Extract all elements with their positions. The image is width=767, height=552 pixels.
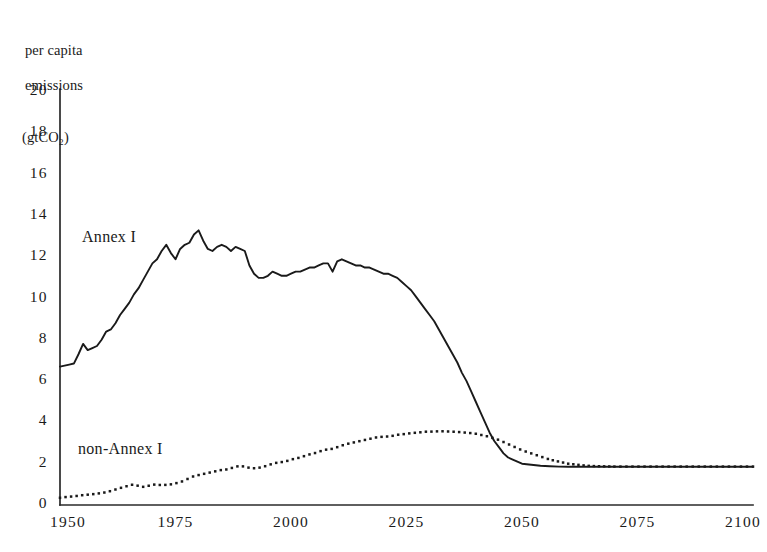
series-dot <box>582 464 585 467</box>
series-dot <box>603 465 606 468</box>
y-tick-0: 0 <box>4 494 48 512</box>
series-dot <box>524 450 527 453</box>
y-tick-6: 6 <box>4 370 48 388</box>
series-dot <box>552 459 555 462</box>
series-dot <box>242 465 245 468</box>
y-tick-14: 14 <box>4 205 48 223</box>
series-dot <box>475 433 478 436</box>
series-dot <box>562 461 565 464</box>
series-dot <box>441 430 444 433</box>
series-dot <box>625 465 628 468</box>
y-tick-4: 4 <box>4 411 48 429</box>
x-tick-2075: 2075 <box>620 513 656 531</box>
series-dot <box>247 466 250 469</box>
series-dot <box>598 465 601 468</box>
series-dot <box>746 465 749 468</box>
series-dot <box>425 430 428 433</box>
series-dot <box>353 441 356 444</box>
series-dot <box>175 482 178 485</box>
series-dot <box>208 471 211 474</box>
series-dot <box>264 465 267 468</box>
y-axis-tick-labels: 02468101214161820 <box>0 0 48 552</box>
series-dot <box>698 465 701 468</box>
y-tick-18: 18 <box>4 122 48 140</box>
series-dot <box>391 435 394 438</box>
series-dot <box>92 493 95 496</box>
x-tick-2100: 2100 <box>725 513 761 531</box>
series-dot <box>236 465 239 468</box>
series-dot <box>572 463 575 466</box>
series-dot <box>593 465 596 468</box>
series-dot <box>170 483 173 486</box>
series-dot <box>192 475 195 478</box>
series-dot <box>436 430 439 433</box>
series-dot <box>86 493 89 496</box>
series-dot <box>253 467 256 470</box>
series-dot <box>502 441 505 444</box>
series-dot <box>358 440 361 443</box>
series-line-annex-i <box>60 230 753 466</box>
series-dot <box>536 454 539 457</box>
series-dots-non-annex-i <box>59 430 755 499</box>
series-dot <box>469 432 472 435</box>
series-dot <box>486 435 489 438</box>
series-dot <box>103 491 106 494</box>
series-dot <box>386 435 389 438</box>
series-dot <box>214 470 217 473</box>
series-dot <box>147 485 150 488</box>
series-dot <box>447 430 450 433</box>
series-dot <box>375 436 378 439</box>
series-dot <box>341 444 344 447</box>
y-tick-2: 2 <box>4 453 48 471</box>
series-dot <box>655 465 658 468</box>
series-dot <box>325 448 328 451</box>
x-tick-1975: 1975 <box>158 513 194 531</box>
y-tick-20: 20 <box>4 81 48 99</box>
series-dot <box>281 461 284 464</box>
y-tick-12: 12 <box>4 246 48 264</box>
series-dot <box>419 431 422 434</box>
series-dot <box>508 443 511 446</box>
series-dot <box>303 455 306 458</box>
series-dot <box>330 448 333 451</box>
series-dot <box>667 465 670 468</box>
series-dot <box>275 462 278 465</box>
series-dot <box>691 465 694 468</box>
series-dot <box>336 446 339 449</box>
series-dot <box>547 458 550 461</box>
series-dot <box>577 464 580 467</box>
series-dot <box>64 496 67 499</box>
series-dot <box>587 465 590 468</box>
series-dot <box>619 465 622 468</box>
series-dot <box>197 474 200 477</box>
axis-lines <box>60 89 753 505</box>
series-dot <box>740 465 743 468</box>
x-tick-2050: 2050 <box>504 513 540 531</box>
series-label-annex-i: Annex I <box>82 228 136 246</box>
series-dot <box>728 465 731 468</box>
series-dot <box>114 488 117 491</box>
series-dot <box>81 494 84 497</box>
series-dot <box>679 465 682 468</box>
series-dot <box>314 452 317 455</box>
y-tick-10: 10 <box>4 288 48 306</box>
series-dot <box>70 495 73 498</box>
series-dot <box>125 485 128 488</box>
series-dot <box>292 458 295 461</box>
series-dot <box>716 465 719 468</box>
series-dot <box>297 457 300 460</box>
series-dot <box>109 490 112 493</box>
y-tick-16: 16 <box>4 164 48 182</box>
series-dot <box>557 460 560 463</box>
series-dot <box>452 430 455 433</box>
series-dot <box>643 465 646 468</box>
chart-figure: per capita emissions (gtCO₂) 02468101214… <box>0 0 767 552</box>
series-dot <box>608 465 611 468</box>
series-dot <box>480 434 483 437</box>
series-dot <box>153 483 156 486</box>
series-dot <box>673 465 676 468</box>
series-dot <box>308 453 311 456</box>
series-dot <box>131 484 134 487</box>
series-dot <box>519 448 522 451</box>
series-dot <box>159 484 162 487</box>
